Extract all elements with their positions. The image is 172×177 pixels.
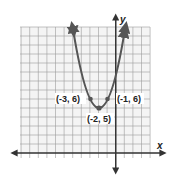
- vertex-marker: [96, 105, 101, 110]
- point-label-right: (-1, 6): [117, 94, 141, 104]
- y-axis-label: y: [119, 14, 126, 25]
- point-label-left: (-3, 6): [56, 94, 80, 104]
- x-axis-label: x: [156, 140, 163, 151]
- grid: [20, 27, 150, 158]
- parabola-graph: x y (-3, 6) (-1, 6) (-2, 5): [0, 0, 172, 177]
- vertex-label: (-2, 5): [87, 114, 111, 124]
- point-marker: [88, 97, 93, 102]
- point-marker: [105, 97, 110, 102]
